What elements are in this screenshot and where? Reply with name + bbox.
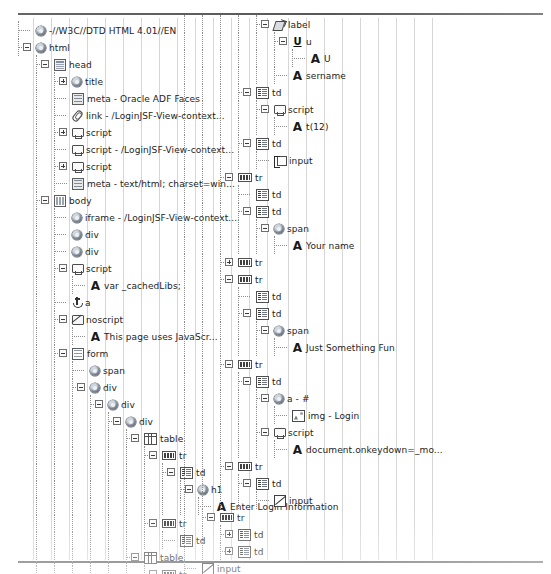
- tree-node[interactable]: span: [274, 220, 309, 237]
- tree-node[interactable]: Adocument.onkeydown=_mo...: [292, 441, 443, 458]
- tree-node[interactable]: table: [144, 549, 183, 566]
- expand-node-toggle[interactable]: [59, 128, 67, 136]
- tree-row[interactable]: input: [238, 560, 551, 574]
- tree-row[interactable]: AYour name: [238, 237, 551, 254]
- collapse-node-toggle[interactable]: [261, 428, 269, 436]
- collapse-node-toggle[interactable]: [261, 224, 269, 232]
- collapse-node-toggle[interactable]: [59, 315, 67, 323]
- tree-node[interactable]: div: [90, 379, 117, 396]
- tree-row[interactable]: td: [238, 526, 551, 543]
- tree-node[interactable]: script: [274, 424, 314, 441]
- tree-row[interactable]: td: [238, 305, 551, 322]
- tree-node[interactable]: script - /LoginJSF-View-context...: [72, 141, 234, 158]
- tree-node[interactable]: script: [274, 101, 314, 118]
- tree-node[interactable]: script: [72, 260, 112, 277]
- tree-node[interactable]: a - #: [274, 390, 310, 407]
- tree-row[interactable]: td: [238, 203, 551, 220]
- collapse-node-toggle[interactable]: [225, 462, 233, 470]
- tree-row[interactable]: td: [238, 135, 551, 152]
- collapse-node-toggle[interactable]: [185, 485, 193, 493]
- tree-node[interactable]: tr: [238, 458, 262, 475]
- dom-tree-right-column[interactable]: labelUuAUAsernametdscriptAt(12)tdinputtr…: [238, 16, 551, 574]
- tree-node[interactable]: html: [36, 39, 70, 56]
- tree-node[interactable]: AU: [310, 50, 331, 67]
- collapse-node-toggle[interactable]: [149, 451, 157, 459]
- tree-node[interactable]: table: [144, 430, 183, 447]
- tree-node[interactable]: meta - text/html; charset=win...: [72, 175, 235, 192]
- collapse-node-toggle[interactable]: [95, 400, 103, 408]
- collapse-node-toggle[interactable]: [243, 377, 251, 385]
- tree-node[interactable]: span: [90, 362, 125, 379]
- tree-node[interactable]: script: [72, 158, 112, 175]
- tree-node[interactable]: tr: [162, 566, 186, 574]
- tree-row[interactable]: At(12): [238, 118, 551, 135]
- collapse-node-toggle[interactable]: [261, 326, 269, 334]
- tree-node[interactable]: input: [274, 492, 313, 509]
- tree-row[interactable]: label: [238, 16, 551, 33]
- tree-node[interactable]: td: [238, 526, 263, 543]
- tree-row[interactable]: tr: [238, 458, 551, 475]
- collapse-node-toggle[interactable]: [243, 88, 251, 96]
- tree-node[interactable]: tr: [238, 356, 262, 373]
- tree-row[interactable]: script: [238, 424, 551, 441]
- tree-node[interactable]: AJust Something Fun: [292, 339, 395, 356]
- collapse-node-toggle[interactable]: [149, 570, 157, 574]
- expand-node-toggle[interactable]: [59, 77, 67, 85]
- tree-node[interactable]: -//W3C//DTD HTML 4.01//EN: [36, 22, 176, 39]
- tree-row[interactable]: Adocument.onkeydown=_mo...: [238, 441, 551, 458]
- tree-node[interactable]: div: [72, 226, 99, 243]
- collapse-node-toggle[interactable]: [149, 519, 157, 527]
- tree-node[interactable]: body: [54, 192, 92, 209]
- tree-node[interactable]: input: [274, 152, 313, 169]
- tree-node[interactable]: tr: [162, 515, 186, 532]
- tree-row[interactable]: a - #: [238, 390, 551, 407]
- tree-node[interactable]: td: [256, 135, 281, 152]
- tree-node[interactable]: form: [72, 345, 108, 362]
- tree-node[interactable]: td: [256, 373, 281, 390]
- tree-row[interactable]: td: [238, 84, 551, 101]
- tree-row[interactable]: td: [238, 186, 551, 203]
- tree-node[interactable]: title: [72, 73, 103, 90]
- tree-node[interactable]: iframe - /LoginJSF-View-context...: [72, 209, 237, 226]
- tree-row[interactable]: tr: [238, 509, 551, 526]
- tree-node[interactable]: span: [274, 322, 309, 339]
- collapse-node-toggle[interactable]: [167, 468, 175, 476]
- collapse-node-toggle[interactable]: [23, 43, 31, 51]
- collapse-node-toggle[interactable]: [225, 275, 233, 283]
- tree-node[interactable]: tr: [238, 254, 262, 271]
- expand-node-toggle[interactable]: [59, 162, 67, 170]
- tree-node[interactable]: noscript: [72, 311, 123, 328]
- expand-node-toggle[interactable]: [225, 530, 233, 538]
- collapse-node-toggle[interactable]: [225, 173, 233, 181]
- tree-row[interactable]: td: [238, 373, 551, 390]
- tree-row[interactable]: script: [238, 101, 551, 118]
- collapse-node-toggle[interactable]: [113, 417, 121, 425]
- tree-node[interactable]: td: [238, 543, 263, 560]
- tree-node[interactable]: div: [72, 243, 99, 260]
- tree-node[interactable]: td: [256, 288, 281, 305]
- tree-node[interactable]: tr: [238, 271, 262, 288]
- collapse-node-toggle[interactable]: [225, 360, 233, 368]
- collapse-node-toggle[interactable]: [59, 349, 67, 357]
- tree-row[interactable]: tr: [238, 356, 551, 373]
- tree-row[interactable]: AJust Something Fun: [238, 339, 551, 356]
- tree-row[interactable]: td: [238, 288, 551, 305]
- tree-row[interactable]: Asername: [238, 67, 551, 84]
- expand-node-toggle[interactable]: [225, 258, 233, 266]
- tree-node[interactable]: meta - Oracle ADF Faces: [72, 90, 200, 107]
- tree-node[interactable]: AYour name: [292, 237, 355, 254]
- tree-row[interactable]: tr: [238, 169, 551, 186]
- collapse-node-toggle[interactable]: [261, 20, 269, 28]
- collapse-node-toggle[interactable]: [261, 394, 269, 402]
- collapse-node-toggle[interactable]: [243, 479, 251, 487]
- collapse-node-toggle[interactable]: [279, 37, 287, 45]
- tree-row[interactable]: tr: [238, 254, 551, 271]
- collapse-node-toggle[interactable]: [41, 60, 49, 68]
- collapse-node-toggle[interactable]: [243, 207, 251, 215]
- tree-node[interactable]: script: [72, 124, 112, 141]
- collapse-node-toggle[interactable]: [131, 434, 139, 442]
- tree-node[interactable]: tr: [162, 447, 186, 464]
- tree-row[interactable]: input: [238, 152, 551, 169]
- tree-node[interactable]: a: [72, 294, 91, 311]
- tree-node[interactable]: head: [54, 56, 92, 73]
